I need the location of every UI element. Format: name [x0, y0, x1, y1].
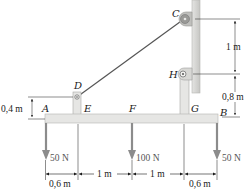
frame-diagram: 50 N 100 N 50 N 0,6 m 1 m 1 m 0,6 m 1 m … [0, 0, 250, 192]
force-arrow-f [128, 123, 136, 160]
load-label-f: 100 N [136, 153, 160, 163]
dim-ae: 0,6 m [49, 179, 71, 189]
label-point-f: F [128, 103, 137, 114]
dim-hb: 0,8 m [222, 92, 244, 102]
label-point-d: D [73, 80, 82, 91]
label-point-g: G [191, 103, 199, 114]
label-point-a: A [41, 103, 49, 114]
dim-ef: 1 m [97, 169, 112, 179]
beam-ab [45, 114, 218, 123]
pivot-h [178, 68, 192, 80]
dim-ch: 1 m [226, 42, 241, 52]
dim-gb: 0,6 m [189, 179, 211, 189]
load-label-a: 50 N [50, 153, 69, 163]
force-arrow-b [213, 123, 221, 160]
dim-fg: 1 m [150, 169, 165, 179]
label-point-c: C [172, 8, 180, 19]
label-point-h: H [168, 69, 178, 80]
dim-d-height: 0,4 m [1, 104, 23, 114]
wall [192, 0, 200, 93]
pulley-c [179, 12, 192, 26]
load-label-b: 50 N [222, 153, 241, 163]
label-point-b: B [219, 107, 227, 118]
force-arrow-a [42, 123, 50, 160]
cable-cd [77, 19, 184, 97]
label-point-e: E [83, 103, 92, 114]
